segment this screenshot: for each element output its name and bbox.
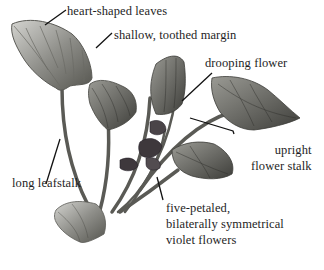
- leaf-center-tall: [151, 56, 186, 114]
- label-flowers-line3: violet flowers: [166, 232, 284, 248]
- leaf-bottom: [55, 202, 106, 243]
- label-flowers-line2: bilaterally symmetrical: [166, 216, 284, 232]
- leaf-lower-right: [172, 142, 233, 179]
- label-drooping-flower: drooping flower: [205, 55, 287, 71]
- label-upright-line2: flower stalk: [251, 158, 312, 174]
- leaf-right: [211, 77, 300, 131]
- label-upright-flower-stalk: upright flower stalk: [251, 142, 312, 174]
- label-long-leafstalk: long leafstalk: [12, 175, 81, 191]
- label-heart-shaped-leaves: heart-shaped leaves: [67, 3, 167, 19]
- label-flowers-line1: five-petaled,: [166, 200, 284, 216]
- violet-diagram: heart-shaped leaves shallow, toothed mar…: [0, 0, 324, 270]
- label-violet-flowers: five-petaled, bilaterally symmetrical vi…: [166, 200, 284, 248]
- violet-flowers: [120, 120, 166, 170]
- heart-shaped-leaf: [12, 20, 92, 90]
- label-upright-line1: upright: [251, 142, 312, 158]
- leaf-mid-left: [89, 80, 137, 130]
- label-shallow-toothed-margin: shallow, toothed margin: [114, 27, 236, 43]
